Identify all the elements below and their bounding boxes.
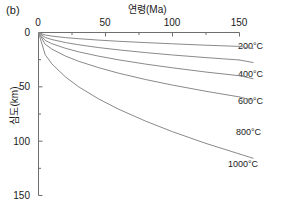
isotherm-curve-1000c: [39, 33, 240, 154]
isotherm-curve-600c: [39, 33, 240, 76]
curve-leader-600c: [240, 76, 254, 79]
isotherm-curve-400c: [39, 33, 240, 60]
curve-leader-400c: [240, 60, 254, 63]
curve-leader-800c: [240, 97, 254, 101]
figure-panel-b: (b) 연령(Ma) 심도(km) 0 50 100 150 0 50 100 …: [0, 0, 286, 210]
curve-leader-1000c: [240, 154, 254, 158]
plot-canvas: [0, 0, 286, 210]
curve-leader-200c: [240, 46, 254, 48]
